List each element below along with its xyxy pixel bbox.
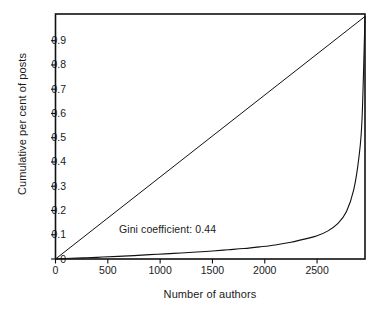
lorenz-curve-figure: Cumulative per cent of posts Number of a…: [0, 0, 388, 314]
plot-canvas: [0, 0, 388, 314]
line-of-equality: [56, 16, 366, 259]
axis-tickmarks: [51, 41, 317, 264]
